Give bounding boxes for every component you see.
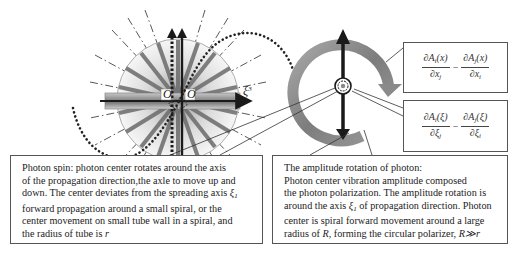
amplitude-rotation-description: The amplitude rotation of photon: Photon…: [272, 155, 508, 244]
photon-spin-description: Photon spin: photon center rotates aroun…: [10, 155, 263, 244]
amp-line-5: center is spiral forward movement around…: [284, 215, 501, 228]
origin-label-right: O: [187, 87, 196, 101]
formula-term-2: ∂Aj(ξ) ∂ξi: [461, 111, 489, 142]
spin-line-4: forward propagation around a small spira…: [22, 203, 256, 216]
spin-line-6: the radius of tube is r: [22, 228, 256, 241]
spin-line-1: Photon spin: photon center rotates aroun…: [22, 162, 256, 175]
ring-arrowhead: [378, 84, 402, 97]
formula-box-xi: ∂Ai(ξ) ∂ξj − ∂Aj(ξ) ∂ξi: [403, 100, 508, 152]
origin-label-left: O: [163, 87, 172, 101]
formula-box-x: ∂Ai(x) ∂xj − ∂Aj(x) ∂xi: [403, 42, 508, 93]
formula-term-1: ∂Ai(x) ∂xj: [422, 52, 450, 83]
amp-line-2: Photon center vibration amplitude compos…: [284, 175, 501, 188]
amplitude-ring: [293, 29, 402, 141]
amp-line-4: around the axis ξ1 of propagation direct…: [284, 200, 501, 216]
formula-term-1: ∂Ai(ξ) ∂ξj: [422, 111, 450, 142]
axis-label-xi: ξ3: [243, 84, 252, 98]
formula-term-2: ∂Aj(x) ∂xi: [461, 52, 489, 83]
spin-line-3: down. The center deviates from the sprea…: [22, 187, 256, 203]
spin-line-5: center movement on small tube wall in a …: [22, 215, 256, 228]
amp-line-3: the photon polarization. The amplitude r…: [284, 187, 501, 200]
formula-operator: −: [453, 62, 459, 73]
spin-line-2: of the propagation direction,the axle to…: [22, 175, 256, 188]
amp-line-1: The amplitude rotation of photon:: [284, 162, 501, 175]
amp-line-6: radius of R, forming the circular polari…: [284, 228, 501, 241]
formula-operator: −: [453, 121, 459, 132]
